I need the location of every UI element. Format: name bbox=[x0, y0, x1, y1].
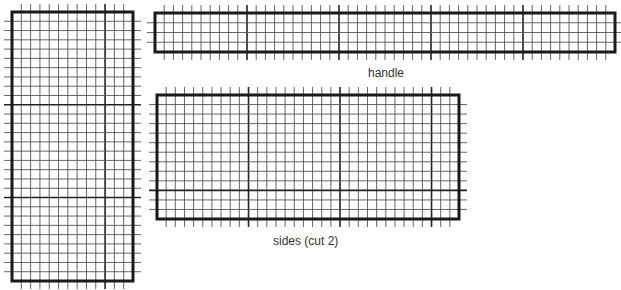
base-grid bbox=[12, 12, 133, 281]
sides-label: sides (cut 2) bbox=[273, 234, 338, 248]
sides-border bbox=[157, 95, 459, 219]
sides-grid bbox=[157, 95, 459, 219]
sides-piece bbox=[157, 95, 459, 219]
handle-label: handle bbox=[368, 66, 404, 80]
base-piece bbox=[12, 12, 133, 281]
base-border bbox=[12, 12, 133, 281]
handle-grid bbox=[155, 13, 615, 52]
handle-piece bbox=[155, 13, 615, 52]
